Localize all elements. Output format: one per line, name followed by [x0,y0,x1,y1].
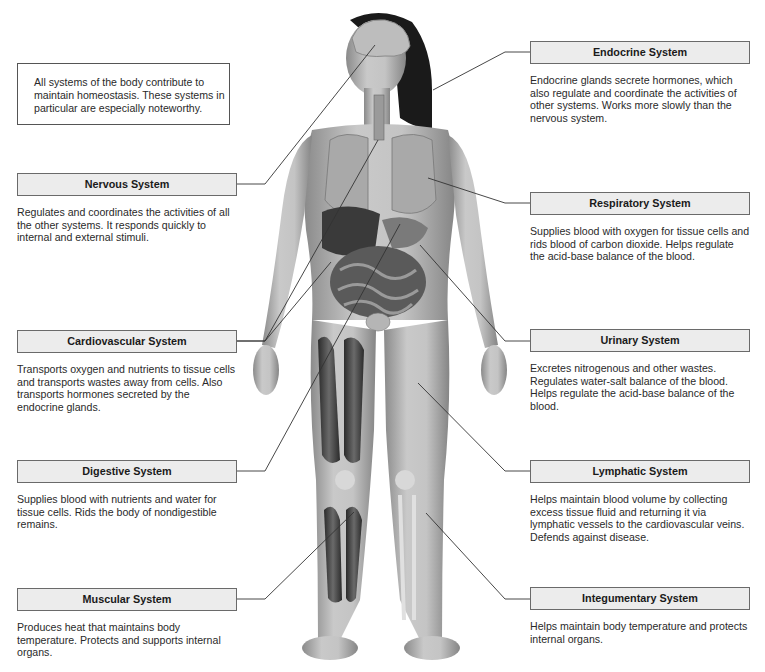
system-title: Digestive System [17,460,237,483]
system-description: Transports oxygen and nutrients to tissu… [17,363,237,413]
system-title: Urinary System [530,329,750,352]
urinary-system-callout: Urinary System Excretes nitrogenous and … [530,329,750,412]
system-description: Helps maintain body temperature and prot… [530,620,750,645]
integumentary-system-callout: Integumentary System Helps maintain body… [530,587,750,645]
system-description: Excretes nitrogenous and other wastes. R… [530,362,750,412]
system-description: Regulates and coordinates the activities… [17,206,237,244]
nervous-system-callout: Nervous System Regulates and coordinates… [17,173,237,244]
system-title: Integumentary System [530,587,750,610]
system-title: Respiratory System [530,192,750,215]
system-title: Endocrine System [530,41,750,64]
system-title: Lymphatic System [530,460,750,483]
lymphatic-system-callout: Lymphatic System Helps maintain blood vo… [530,460,750,543]
body-silhouette [253,13,507,660]
respiratory-system-callout: Respiratory System Supplies blood with o… [530,192,750,263]
system-description: Supplies blood with nutrients and water … [17,493,237,531]
digestive-system-callout: Digestive System Supplies blood with nut… [17,460,237,531]
system-description: Helps maintain blood volume by collectin… [530,493,750,543]
endocrine-system-callout: Endocrine System Endocrine glands secret… [530,41,750,124]
muscular-system-callout: Muscular System Produces heat that maint… [17,588,237,659]
cardiovascular-system-callout: Cardiovascular System Transports oxygen … [17,330,237,413]
system-title: Muscular System [17,588,237,611]
system-title: Cardiovascular System [17,330,237,353]
system-description: Produces heat that maintains body temper… [17,621,237,659]
leader-lines [236,45,530,599]
system-title: Nervous System [17,173,237,196]
intro-text: All systems of the body contribute to ma… [34,76,225,114]
system-description: Supplies blood with oxygen for tissue ce… [530,225,750,263]
system-description: Endocrine glands secrete hormones, which… [530,74,750,124]
intro-note: All systems of the body contribute to ma… [17,63,230,125]
